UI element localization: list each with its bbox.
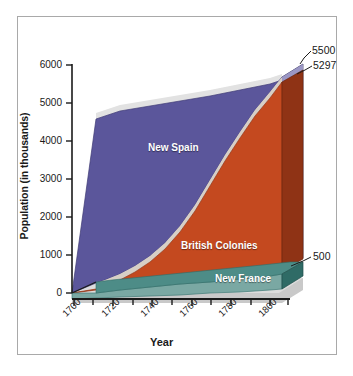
callout-label-500: 500 xyxy=(313,250,331,262)
y-tick-label-0: 0 xyxy=(20,287,62,298)
area-chart-canvas xyxy=(0,0,353,376)
callout-label-5500: 5500 xyxy=(312,44,335,56)
series-label-new-spain: New Spain xyxy=(148,142,199,153)
british-colonies-side-face xyxy=(282,70,303,271)
y-axis-title: Population (in thousands) xyxy=(18,91,30,261)
chart-screenshot: 0 1000 2000 3000 4000 5000 6000 1700 172… xyxy=(0,0,353,376)
y-axis-ticks xyxy=(66,65,72,293)
series-label-british-colonies: British Colonies xyxy=(181,240,258,251)
y-tick-label-6000: 6000 xyxy=(20,59,62,70)
x-axis-title: Year xyxy=(150,336,173,348)
series-label-new-france: New France xyxy=(215,273,271,284)
callout-label-5297: 5297 xyxy=(313,59,336,71)
callout-leader-5500 xyxy=(300,51,311,64)
